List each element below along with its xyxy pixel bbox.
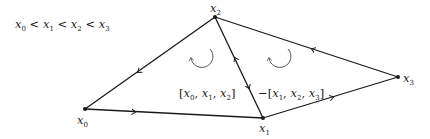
simplicial-complex-diagram: x0 < x1 < x2 < x3 x0 x1 x2 x3 [x0, x1, x… [0, 0, 430, 139]
vertex-x3 [396, 75, 400, 79]
edge-x0-x1 [85, 109, 263, 118]
vertex-x1 [261, 116, 265, 120]
edge-x3-x2 [215, 17, 398, 77]
vertex-label-x0: x0 [77, 113, 88, 129]
vertex-x0 [83, 107, 87, 111]
orientation-arrow-left-icon [191, 49, 213, 67]
orientation-arrow-right-icon [269, 49, 291, 67]
edge-x1-x2 [215, 17, 263, 118]
ordering-condition: x0 < x1 < x2 < x3 [15, 17, 110, 33]
face-label-x0-x1-x2: [x0, x1, x2] [179, 86, 236, 102]
vertex-label-x3: x3 [403, 71, 414, 87]
vertex-label-x1: x1 [259, 121, 270, 137]
vertex-label-x2: x2 [210, 1, 221, 17]
face-label-x1-x2-x3: −[x1, x2, x3] [258, 86, 324, 102]
edge-arrows [120, 49, 333, 112]
